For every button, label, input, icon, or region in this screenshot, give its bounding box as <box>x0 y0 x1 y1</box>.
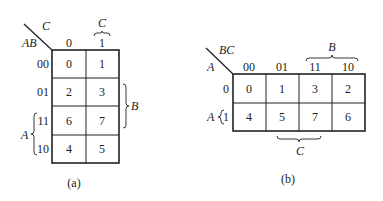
row-header: 11 <box>37 114 49 128</box>
karnaugh-map-a: C AB 0 1 C 00 01 11 10 0 1 2 3 6 7 4 5 B… <box>20 16 139 190</box>
column-header: 01 <box>276 60 288 74</box>
column-header: 1 <box>99 36 105 50</box>
row-variable-label: AB <box>21 36 37 50</box>
cell-minterm: 3 <box>312 82 318 96</box>
row-header: 00 <box>37 57 49 71</box>
cell-minterm: 5 <box>279 110 285 124</box>
column-variable-label: BC <box>219 43 235 57</box>
cell-minterm: 2 <box>345 82 351 96</box>
cell-minterm: 0 <box>246 82 252 96</box>
cell-minterm: 6 <box>66 114 72 128</box>
cell-minterm: 4 <box>246 110 252 124</box>
column-variable-label: C <box>42 19 51 33</box>
brace-label-b: B <box>131 99 139 113</box>
brace-label-a: A <box>20 128 29 142</box>
cell-minterm: 7 <box>312 110 318 124</box>
column-header: 0 <box>66 36 72 50</box>
column-header: 00 <box>243 60 255 74</box>
cell-minterm: 2 <box>66 85 72 99</box>
brace-label-b: B <box>328 40 336 54</box>
row-header: 1 <box>223 110 229 124</box>
brace-bottom-c <box>277 136 321 142</box>
cell-minterm: 1 <box>99 57 105 71</box>
cell-minterm: 4 <box>66 142 72 156</box>
cell-minterm: 7 <box>99 114 105 128</box>
karnaugh-maps-figure: C AB 0 1 C 00 01 11 10 0 1 2 3 6 7 4 5 B… <box>0 0 383 201</box>
column-header: 10 <box>342 60 354 74</box>
figure-caption: (b) <box>281 172 295 186</box>
cell-minterm: 5 <box>99 142 105 156</box>
row-header: 01 <box>37 85 49 99</box>
cell-minterm: 0 <box>66 57 72 71</box>
brace-label-c: C <box>98 16 107 30</box>
brace-label-c: C <box>296 144 305 158</box>
brace-label-a: A <box>206 110 215 124</box>
karnaugh-map-b: BC A 00 01 11 10 B 0 1 A 0 1 3 2 4 5 7 6… <box>206 40 365 186</box>
figure-caption: (a) <box>67 176 80 190</box>
column-header: 11 <box>309 60 321 74</box>
cell-minterm: 6 <box>345 110 351 124</box>
cell-minterm: 3 <box>99 85 105 99</box>
row-header: 0 <box>223 82 229 96</box>
cell-minterm: 1 <box>279 82 285 96</box>
row-header: 10 <box>37 142 49 156</box>
row-variable-label: A <box>206 60 215 74</box>
brace-right-b <box>123 84 129 128</box>
